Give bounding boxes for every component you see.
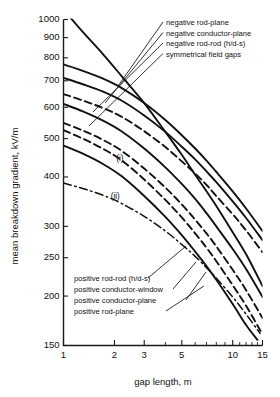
legend-top-item-3: symmetrical field gaps xyxy=(166,50,241,59)
y-tick-label-150: 150 xyxy=(44,339,60,350)
legend-top-item-2: negative rod-rod (h/d-s) xyxy=(166,39,246,48)
bottom-legend-labels: positive rod-rod (h/d-s) positive conduc… xyxy=(74,274,164,316)
y-tick-label-600: 600 xyxy=(44,101,60,112)
leader-bottom-3 xyxy=(166,286,204,311)
y-tick-label-400: 400 xyxy=(44,170,60,181)
top-legend-labels: negative rod-plane negative conductor-pl… xyxy=(166,18,251,59)
y-tick-label-250: 250 xyxy=(44,251,60,262)
legend-top-item-1: negative conductor-plane xyxy=(166,29,251,38)
leader-top-0 xyxy=(118,22,163,86)
x-tick-label-5: 5 xyxy=(179,349,184,360)
x-tick-label-3: 3 xyxy=(142,349,147,360)
y-tick-label-300: 300 xyxy=(44,220,60,231)
legend-bottom-item-0: positive rod-rod (h/d-s) xyxy=(74,274,151,283)
x-tick-label-15: 15 xyxy=(257,349,268,360)
breakdown-gradient-log-log-chart: 1502002503004005006007008009001000 12351… xyxy=(0,0,280,397)
legend-top-item-0: negative rod-plane xyxy=(166,18,229,27)
chart-figure: 1502002503004005006007008009001000 12351… xyxy=(0,0,280,397)
leader-bottom-0 xyxy=(148,246,186,278)
y-tick-label-700: 700 xyxy=(44,74,60,85)
curve-negative-rod-plane xyxy=(64,64,263,231)
x-tick-label-1: 1 xyxy=(61,349,66,360)
curve-note-ii: (ii) xyxy=(111,192,120,201)
legend-bottom-item-3: positive rod-plane xyxy=(74,307,134,316)
y-tick-label-800: 800 xyxy=(44,51,60,62)
x-axis-title: gap length, m xyxy=(134,376,192,387)
y-axis-title: mean breakdown gradient, kV/m xyxy=(9,128,20,265)
legend-bottom-item-1: positive conductor-window xyxy=(74,285,164,294)
legend-bottom-item-2: positive conductor-plane xyxy=(74,296,156,305)
x-axis-ticks: 12351015 xyxy=(61,340,268,360)
y-tick-label-500: 500 xyxy=(44,132,60,143)
y-tick-label-1000: 1000 xyxy=(38,13,59,24)
x-tick-label-2: 2 xyxy=(112,349,117,360)
x-tick-label-10: 10 xyxy=(227,349,238,360)
curve-note-i: (i) xyxy=(116,154,124,163)
leader-bottom-1 xyxy=(173,262,196,289)
y-tick-label-900: 900 xyxy=(44,31,60,42)
top-legend-leader-lines xyxy=(89,22,163,126)
y-tick-label-200: 200 xyxy=(44,290,60,301)
